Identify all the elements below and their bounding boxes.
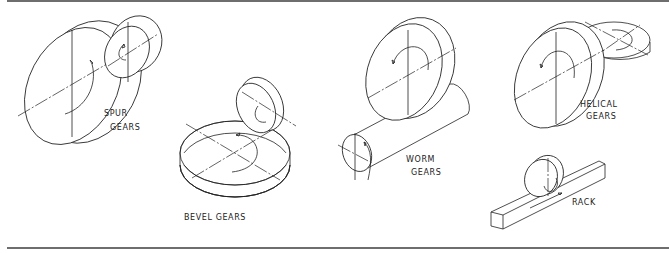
helical-label-line1: HELICAL (580, 100, 618, 109)
bevel-gears-illustration (178, 70, 296, 197)
worm-gears-illustration (337, 5, 469, 180)
helical-label-line2: GEARS (586, 112, 616, 121)
gears-diagram: SPUR GEARS BEVEL GEARS (0, 0, 669, 253)
spur-label-line1: SPUR (104, 109, 128, 118)
rack-illustration (491, 150, 605, 229)
bevel-label: BEVEL GEARS (184, 213, 246, 222)
spur-gears-illustration (5, 2, 172, 162)
helical-gears-illustration (500, 9, 650, 140)
worm-label-line1: WORM (406, 155, 435, 164)
worm-label-line2: GEARS (411, 168, 441, 177)
gear-types-figure: SPUR GEARS BEVEL GEARS (0, 0, 669, 253)
spur-label-line2: GEARS (110, 123, 140, 132)
rack-label: RACK (572, 198, 596, 207)
